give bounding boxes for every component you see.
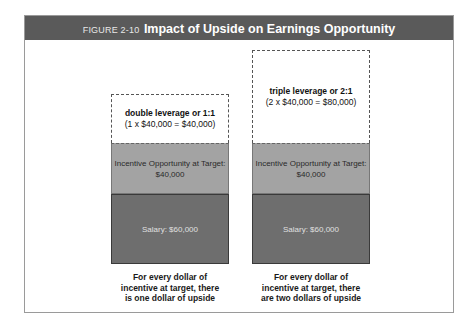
incentive-value: $40,000 bbox=[114, 169, 225, 180]
upside-box: double leverage or 1:1 (1 x $40,000 = $4… bbox=[111, 94, 229, 143]
upside-label: double leverage or 1:1 bbox=[125, 108, 216, 119]
caption-line: For every dollar of bbox=[242, 272, 380, 283]
salary-box: Salary: $60,000 bbox=[252, 194, 370, 264]
caption-line: incentive at target, there bbox=[242, 283, 380, 294]
figure-frame: FIGURE 2-10 Impact of Upside on Earnings… bbox=[24, 15, 454, 313]
upside-box: triple leverage or 2:1 (2 x $40,000 = $8… bbox=[252, 50, 370, 143]
incentive-label: Incentive Opportunity at Target: bbox=[255, 158, 366, 169]
upside-formula: (2 x $40,000 = $80,000) bbox=[266, 97, 357, 108]
incentive-value: $40,000 bbox=[255, 169, 366, 180]
upside-formula: (1 x $40,000 = $40,000) bbox=[125, 119, 216, 130]
upside-label: triple leverage or 2:1 bbox=[266, 86, 357, 97]
salary-label: Salary: $60,000 bbox=[142, 225, 198, 234]
column-caption: For every dollar of incentive at target,… bbox=[242, 272, 380, 304]
incentive-box: Incentive Opportunity at Target: $40,000 bbox=[111, 143, 229, 194]
figure-title: Impact of Upside on Earnings Opportunity bbox=[144, 22, 395, 36]
incentive-box: Incentive Opportunity at Target: $40,000 bbox=[252, 143, 370, 194]
incentive-label: Incentive Opportunity at Target: bbox=[114, 158, 225, 169]
caption-line: For every dollar of bbox=[101, 272, 239, 283]
caption-line: incentive at target, there bbox=[101, 283, 239, 294]
caption-line: are two dollars of upside bbox=[242, 293, 380, 304]
figure-header: FIGURE 2-10 Impact of Upside on Earnings… bbox=[25, 16, 453, 40]
salary-label: Salary: $60,000 bbox=[283, 225, 339, 234]
figure-label: FIGURE 2-10 bbox=[83, 25, 140, 35]
salary-box: Salary: $60,000 bbox=[111, 194, 229, 264]
caption-line: is one dollar of upside bbox=[101, 293, 239, 304]
column-caption: For every dollar of incentive at target,… bbox=[101, 272, 239, 304]
